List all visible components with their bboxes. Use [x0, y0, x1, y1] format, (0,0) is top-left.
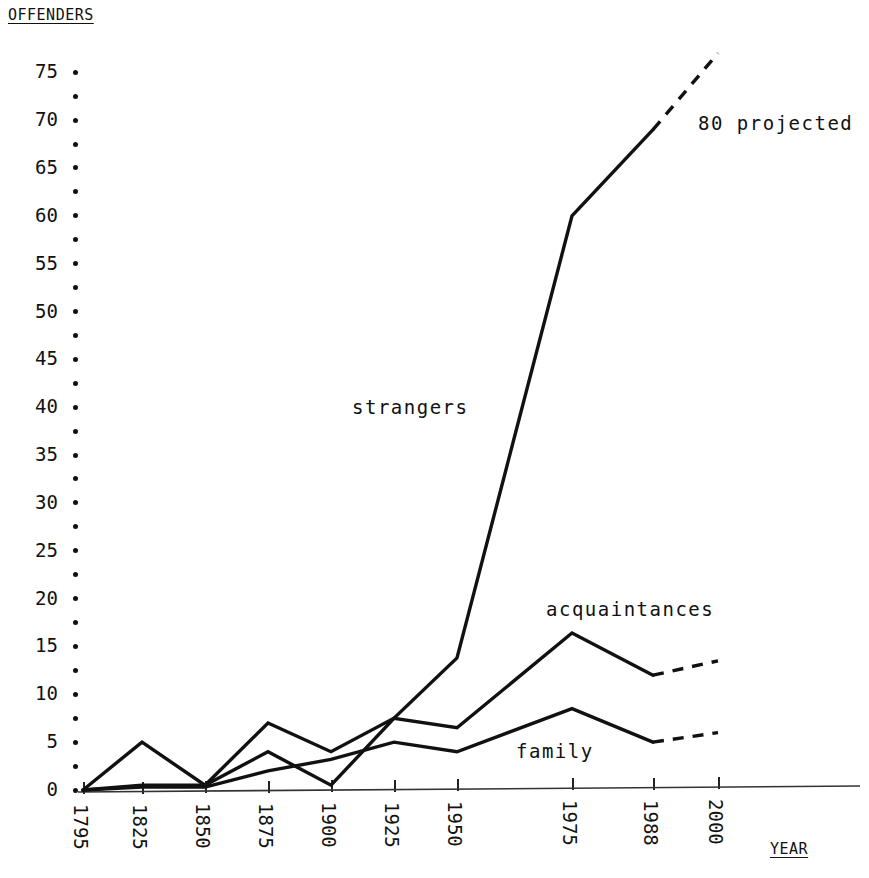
offenders-line-chart: OFFENDERS YEAR 0510152025303540455055606… [0, 0, 869, 878]
series-label-family: family [516, 740, 594, 762]
series-projection-acquaintances [653, 661, 718, 675]
projected-annotation: 80 projected [698, 112, 853, 134]
series-projection-family [653, 733, 718, 743]
series-line-strangers [83, 130, 653, 790]
series-label-acquaintances: acquaintances [546, 598, 714, 620]
series-label-strangers: strangers [352, 396, 468, 418]
